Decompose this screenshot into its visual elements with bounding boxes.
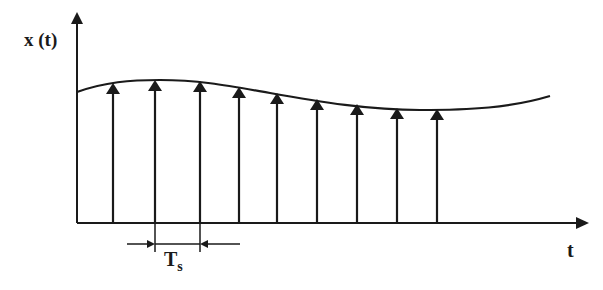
- x-axis-label: t: [567, 239, 574, 261]
- period-label-subscript: s: [177, 259, 183, 274]
- period-arrow-left-icon: [147, 240, 155, 248]
- period-label: Ts: [164, 248, 183, 274]
- period-label-main: T: [164, 248, 178, 270]
- sample-2-arrowhead-icon: [148, 80, 162, 91]
- y-axis-label: x (t): [24, 29, 57, 51]
- y-axis-arrowhead-icon: [71, 12, 83, 24]
- sample-impulses: [106, 80, 444, 223]
- period-arrow-right-icon: [200, 240, 208, 248]
- sampling-period-marker: [127, 223, 240, 252]
- sampling-diagram: x (t) t Ts: [0, 0, 603, 290]
- x-axis-arrowhead-icon: [576, 217, 589, 229]
